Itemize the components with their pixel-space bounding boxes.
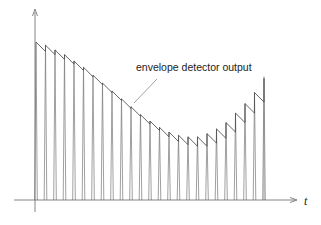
carrier-pulse (158, 127, 161, 200)
carrier-pulse (187, 137, 190, 200)
carrier-pulse (92, 75, 95, 200)
carrier-pulse (73, 61, 76, 200)
carrier-pulse (44, 45, 47, 200)
envelope-detector-diagram: t envelope detector output (0, 0, 321, 225)
carrier-pulse (139, 115, 142, 200)
carrier-pulse (63, 55, 66, 200)
carrier-pulse (130, 107, 133, 200)
carrier-pulse (111, 91, 114, 200)
carrier-pulse (177, 135, 180, 200)
carrier-pulse (168, 132, 171, 200)
annotation-label: envelope detector output (136, 61, 252, 73)
carrier-pulse (101, 83, 104, 200)
carrier-pulse (149, 121, 152, 200)
carrier-pulse (54, 50, 57, 200)
carrier-pulse (120, 99, 123, 200)
carrier-pulse (82, 67, 85, 200)
annotation-leader (134, 79, 157, 103)
x-axis-label: t (304, 194, 308, 208)
